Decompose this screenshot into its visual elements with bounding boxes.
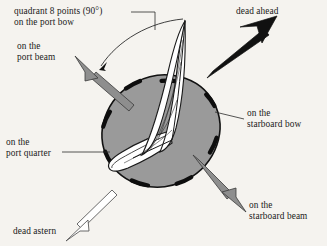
label-dead-astern: dead astern (13, 226, 56, 237)
label-quadrant-port-bow: quadrant 8 points (90°)on the port bow (14, 6, 102, 29)
label-dead-ahead: dead ahead (236, 6, 279, 17)
port-beam-arrow (75, 56, 134, 111)
label-port-beam-line2: port beam (17, 52, 55, 62)
label-quadrant-line2: on the port bow (14, 17, 74, 27)
label-dead-ahead-line1: dead ahead (236, 6, 279, 16)
nautical-bearings-diagram: quadrant 8 points (90°)on the port bow o… (0, 0, 327, 246)
dead-ahead-arrow (207, 16, 277, 78)
label-port-quarter: on theport quarter (6, 137, 51, 160)
port-beam-arrow-head (75, 56, 98, 81)
label-port-quarter-line2: port quarter (6, 148, 51, 158)
label-starboard-bow-line1: on the (247, 108, 271, 118)
dead-astern-arrow-shaft (77, 190, 117, 229)
label-quadrant-line1: quadrant 8 points (90°) (14, 6, 102, 16)
label-starboard-bow-line2: starboard bow (247, 119, 301, 129)
label-starboard-beam-line2: starboard beam (249, 211, 307, 221)
label-dead-astern-line1: dead astern (13, 226, 56, 236)
label-port-beam: on theport beam (17, 41, 55, 64)
starboard-beam-arrow-head (222, 188, 246, 212)
label-starboard-bow: on thestarboard bow (247, 108, 301, 131)
label-port-quarter-line1: on the (6, 137, 30, 147)
label-starboard-beam-line1: on the (249, 200, 273, 210)
label-starboard-beam: on thestarboard beam (249, 200, 307, 223)
dead-astern-arrow (66, 190, 117, 241)
leader-quadrant-line (131, 12, 155, 30)
starboard-beam-arrow (193, 155, 246, 212)
leader-quadrant (131, 12, 155, 30)
label-port-beam-line1: on the (17, 41, 41, 51)
